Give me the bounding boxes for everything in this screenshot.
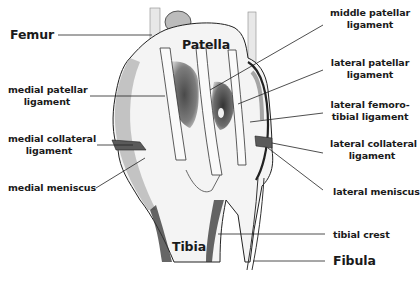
label-medial-meniscus: medial meniscus [8, 182, 96, 194]
label-line: lateral patellar [330, 57, 410, 69]
label-femur: Femur [10, 28, 54, 42]
label-line: ligament [330, 69, 410, 81]
label-line: lateral collateral [330, 138, 414, 150]
label-line: medial patellar [8, 84, 86, 96]
label-fibula: Fibula [333, 254, 376, 268]
label-tibia: Tibia [172, 240, 206, 254]
lateral-meniscus-shape [255, 136, 272, 148]
label-line: ligament [330, 150, 414, 162]
label-line: ligament [8, 145, 90, 157]
label-lateral-femorotibial-ligament: lateral femoro- tibial ligament [330, 99, 410, 123]
label-medial-collateral-ligament: medial collateral ligament [8, 133, 90, 157]
label-lateral-meniscus: lateral meniscus [333, 186, 420, 198]
label-line: ligament [8, 96, 86, 108]
label-line: lateral femoro- [330, 99, 410, 111]
label-patella: Patella [182, 38, 230, 52]
label-medial-patellar-ligament: medial patellar ligament [8, 84, 86, 108]
label-line: tibial ligament [330, 111, 410, 123]
label-middle-patellar-ligament: middle patellar ligament [330, 7, 410, 31]
label-line: medial collateral [8, 133, 90, 145]
leader-lateral-collateral-ligament [272, 143, 323, 153]
label-lateral-patellar-ligament: lateral patellar ligament [330, 57, 410, 81]
label-line: ligament [330, 19, 410, 31]
lateral-cavity-highlight [218, 108, 224, 118]
leader-lateral-meniscus [268, 148, 323, 190]
label-tibial-crest: tibial crest [333, 229, 390, 241]
label-line: middle patellar [330, 7, 410, 19]
label-lateral-collateral-ligament: lateral collateral ligament [330, 138, 414, 162]
